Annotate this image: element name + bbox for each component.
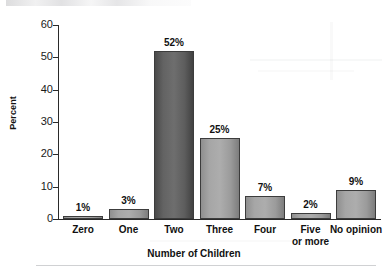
x-axis-title: Number of Children bbox=[0, 248, 388, 259]
y-tick-label: 0 bbox=[27, 213, 53, 224]
bar[interactable] bbox=[245, 196, 285, 219]
y-tick-label: 60 bbox=[27, 19, 53, 30]
y-axis-title: Percent bbox=[8, 89, 18, 137]
bar-group[interactable]: 25% bbox=[198, 25, 242, 219]
bar-value-label: 25% bbox=[198, 124, 242, 135]
x-tick-label: No opinion bbox=[328, 224, 384, 236]
bar[interactable] bbox=[154, 51, 194, 219]
bar[interactable] bbox=[200, 138, 240, 219]
bar[interactable] bbox=[336, 190, 376, 219]
bar[interactable] bbox=[63, 216, 103, 219]
bar-group[interactable]: 7% bbox=[243, 25, 287, 219]
bar-group[interactable]: 52% bbox=[152, 25, 196, 219]
bar-value-label: 7% bbox=[243, 182, 287, 193]
y-tick-label: 40 bbox=[27, 84, 53, 95]
bar-value-label: 2% bbox=[289, 199, 333, 210]
y-tick-label: 50 bbox=[27, 51, 53, 62]
bar-group[interactable]: 2% bbox=[289, 25, 333, 219]
bar-group[interactable]: 9% bbox=[334, 25, 378, 219]
bar-group[interactable]: 3% bbox=[107, 25, 151, 219]
bar-value-label: 52% bbox=[152, 37, 196, 48]
y-tick-label: 30 bbox=[27, 116, 53, 127]
plot-area: 1%3%52%25%7%2%9% bbox=[59, 25, 381, 219]
bar-group[interactable]: 1% bbox=[61, 25, 105, 219]
y-tick-label: 20 bbox=[27, 148, 53, 159]
bar-chart: Percent 0102030405060 1%3%52%25%7%2%9% Z… bbox=[0, 0, 388, 273]
x-axis-line bbox=[58, 219, 381, 220]
y-tick-label: 10 bbox=[27, 181, 53, 192]
bar[interactable] bbox=[291, 213, 331, 219]
bar-value-label: 9% bbox=[334, 176, 378, 187]
bar[interactable] bbox=[109, 209, 149, 219]
bar-value-label: 1% bbox=[61, 202, 105, 213]
page-rule bbox=[36, 265, 376, 266]
bar-value-label: 3% bbox=[107, 195, 151, 206]
cropped-title-artifact bbox=[6, 0, 191, 6]
